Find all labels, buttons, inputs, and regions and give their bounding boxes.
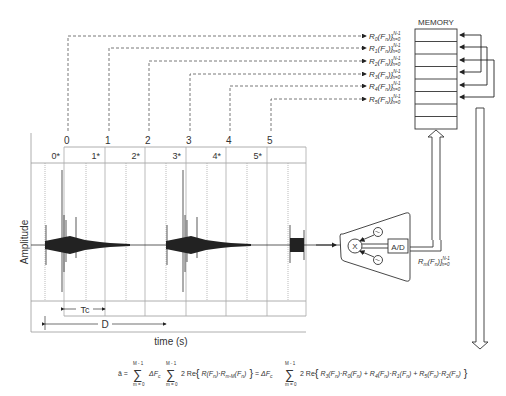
memory-feedback-arrows [460, 35, 494, 97]
timeline-frame [31, 133, 306, 332]
star-labels: 0* 1* 2* 3* 4* 5* [51, 151, 262, 161]
svg-text:∑: ∑ [285, 367, 294, 382]
svg-text:∑: ∑ [133, 367, 142, 382]
memory-input-arrow [428, 130, 444, 240]
svg-text:R4(Fn)}N-1n=0: R4(Fn)}N-1n=0 [369, 81, 401, 92]
svg-text:M - 1: M - 1 [133, 361, 144, 366]
svg-text:R1(Fn)}N-1n=0: R1(Fn)}N-1n=0 [369, 43, 401, 54]
svg-text:2: 2 [145, 135, 151, 146]
output-down-arrow [472, 108, 488, 349]
svg-text:0*: 0* [51, 151, 60, 161]
svg-text:3*: 3* [172, 151, 181, 161]
adc-label: A/D [391, 243, 405, 252]
svg-text:∑: ∑ [166, 367, 175, 382]
adc-output-label: Rm(Fn)}N-1n=0 [418, 256, 450, 267]
svg-text:5: 5 [267, 135, 273, 146]
memory-labels: R0(Fn)}N-1n=0 R1(Fn)}N-1n=0 R2(Fn)}N-1n=… [369, 31, 401, 105]
window-midlines [45, 163, 288, 301]
diagram-canvas: R0(Fn)}N-1n=0 R1(Fn)}N-1n=0 R2(Fn)}N-1n=… [0, 0, 506, 396]
svg-text:R5(Fn)}N-1n=0: R5(Fn)}N-1n=0 [369, 94, 401, 105]
svg-text:2*: 2* [131, 151, 140, 161]
svg-text:1*: 1* [91, 151, 100, 161]
svg-text:m = 0: m = 0 [133, 382, 145, 387]
svg-text:2 Re{ R(Fn)·Rm-M(Fn) } = ΔFc: 2 Re{ R(Fn)·Rm-M(Fn) } = ΔFc [181, 367, 273, 379]
svg-text:0: 0 [64, 135, 70, 146]
oscillator-icon [374, 256, 383, 265]
svg-text:R2(Fn)}N-1n=0: R2(Fn)}N-1n=0 [369, 56, 401, 67]
equation: ā = ∑ M - 1 m = 0 ΔFc ∑ M - 1 m = 0 2 Re… [118, 361, 468, 387]
waveform [45, 170, 304, 292]
svg-text:M - 1: M - 1 [285, 361, 296, 366]
y-axis-label: Amplitude [19, 219, 30, 264]
memory-box [415, 29, 457, 129]
svg-text:2 Re{ R3(Fn)·R0(Fn) + R4(Fn)·R: 2 Re{ R3(Fn)·R0(Fn) + R4(Fn)·R1(Fn) + R5… [300, 367, 468, 379]
svg-text:ā =: ā = [118, 370, 128, 377]
d-label: D [101, 319, 108, 330]
x-axis-label: time (s) [154, 336, 187, 347]
svg-text:R3(Fn)}N-1n=0: R3(Fn)}N-1n=0 [369, 69, 401, 80]
svg-text:4: 4 [226, 135, 232, 146]
svg-text:m = 0: m = 0 [166, 382, 178, 387]
svg-text:R0(Fn)}N-1n=0: R0(Fn)}N-1n=0 [369, 31, 401, 42]
svg-text:M - 1: M - 1 [166, 361, 177, 366]
svg-text:m = 0: m = 0 [285, 382, 297, 387]
memory-title: MEMORY [418, 18, 455, 27]
svg-text:1: 1 [105, 135, 111, 146]
svg-text:5*: 5* [253, 151, 262, 161]
svg-text:3: 3 [186, 135, 192, 146]
tc-label: Tc [81, 305, 91, 315]
window-numbers: 0 1 2 3 4 5 [64, 135, 273, 146]
svg-text:4*: 4* [212, 151, 221, 161]
svg-text:ΔFc: ΔFc [148, 370, 161, 379]
window-connectors [68, 36, 366, 131]
mixer-label: X [352, 242, 358, 251]
oscillator-icon [374, 228, 383, 237]
